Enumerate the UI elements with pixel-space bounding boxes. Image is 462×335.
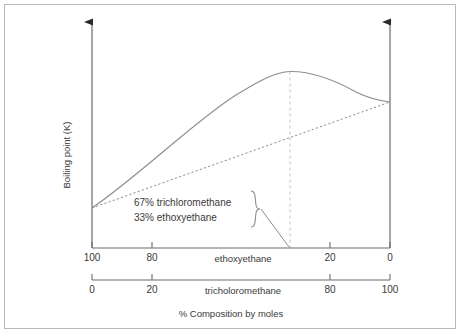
annotation-leader-line	[261, 209, 289, 247]
x-axis-caption: % Composition by moles	[179, 308, 284, 319]
upper-boiling-curve	[92, 71, 390, 208]
chart-canvas: Boiling point (K) 100 80 20 0 ethoxyetha…	[0, 0, 462, 335]
tricholoromethane-tick-label-0: 0	[89, 284, 95, 295]
boiling-point-composition-diagram: Boiling point (K) 100 80 20 0 ethoxyetha…	[0, 0, 462, 335]
tricholoromethane-tick-label-100: 100	[382, 284, 399, 295]
y-axis-label: Boiling point (K)	[61, 121, 72, 188]
tricholoromethane-tick-label-20: 20	[146, 284, 158, 295]
ethoxyethane-tick-label-100: 100	[84, 252, 101, 263]
ethoxyethane-axis-name: ethoxyethane	[214, 253, 271, 264]
azeotrope-label-line-2: 33% ethoxyethane	[134, 212, 217, 223]
lower-dashed-curve	[92, 102, 390, 208]
azeotrope-label-line-1: 67% trichloromethane	[134, 197, 232, 208]
ethoxyethane-tick-label-20: 20	[324, 252, 336, 263]
tricholoromethane-axis-name: tricholoromethane	[205, 285, 281, 296]
ethoxyethane-tick-label-80: 80	[146, 252, 158, 263]
tricholoromethane-tick-label-80: 80	[324, 284, 336, 295]
ethoxyethane-tick-label-0: 0	[387, 252, 393, 263]
annotation-brace	[251, 191, 260, 227]
